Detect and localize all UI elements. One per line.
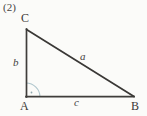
figure-container: (2) C A B b a c (0, 0, 147, 116)
side-label-a: a (80, 51, 86, 62)
side-a-line (27, 30, 135, 97)
vertex-label-c: C (21, 12, 29, 24)
side-label-b: b (13, 57, 19, 68)
vertex-label-a: A (20, 100, 29, 112)
vertex-label-b: B (131, 100, 139, 112)
side-label-c: c (74, 97, 79, 108)
right-angle-dot (31, 92, 33, 94)
right-angle-arc (26, 83, 40, 97)
